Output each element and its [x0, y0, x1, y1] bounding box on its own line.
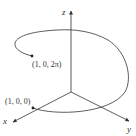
helix-diagram: z x y (1, 0, 0) (1, 0, 2π): [0, 0, 136, 136]
helix-curve: [15, 30, 129, 113]
point-end-marker: [31, 55, 34, 58]
y-axis: [71, 92, 129, 121]
y-axis-label: y: [126, 124, 131, 134]
point-start-label: (1, 0, 0): [5, 97, 31, 106]
point-start-marker: [32, 107, 35, 110]
diagram-svg: z x y (1, 0, 0) (1, 0, 2π): [0, 0, 136, 136]
z-axis-label: z: [61, 7, 66, 17]
point-end-label: (1, 0, 2π): [32, 60, 62, 69]
x-axis-label: x: [2, 116, 7, 126]
